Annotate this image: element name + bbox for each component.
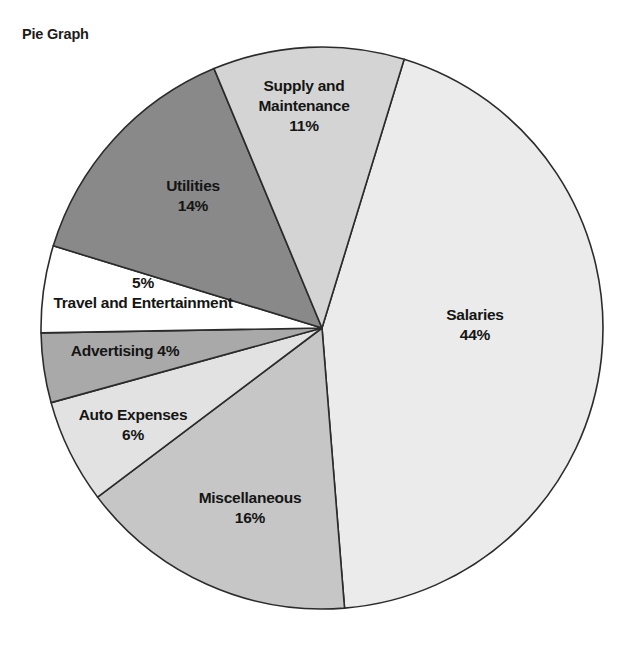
pie-chart-figure: Pie Graph Salaries44%Miscellaneous16%Aut…: [0, 0, 636, 647]
pie-chart-svg: [0, 0, 636, 647]
pie-slice-group: [41, 47, 603, 609]
